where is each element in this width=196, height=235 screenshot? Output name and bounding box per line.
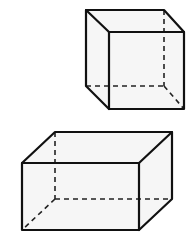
cube <box>86 10 184 109</box>
diagram-canvas <box>0 0 196 235</box>
prism-fill <box>22 132 172 230</box>
rectangular-prism <box>22 132 172 230</box>
